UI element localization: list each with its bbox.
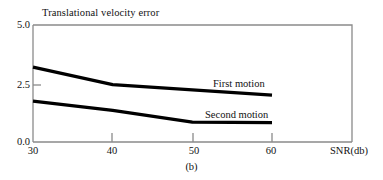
y-axis-tick-label-2point5: 2.5 [4,80,30,91]
x-axis-tick-label-40: 40 [99,146,125,157]
x-axis-tick-label-30: 30 [20,146,46,157]
figure-panel: Translational velocity error 5.0 2.5 0.0… [0,0,383,180]
x-axis-title: SNR(db) [330,146,368,157]
figure-caption: (b) [0,162,383,173]
chart-title: Translational velocity error [42,8,159,19]
axis-frame [33,25,352,142]
y-axis-tick-label-5: 5.0 [4,20,30,31]
series-label-second-motion: Second motion [205,110,268,121]
x-axis-tick-label-60: 60 [258,146,284,157]
x-axis-tick-label-50: 50 [181,146,207,157]
x-tick-marks [112,133,272,142]
series-label-first-motion: First motion [213,79,265,90]
